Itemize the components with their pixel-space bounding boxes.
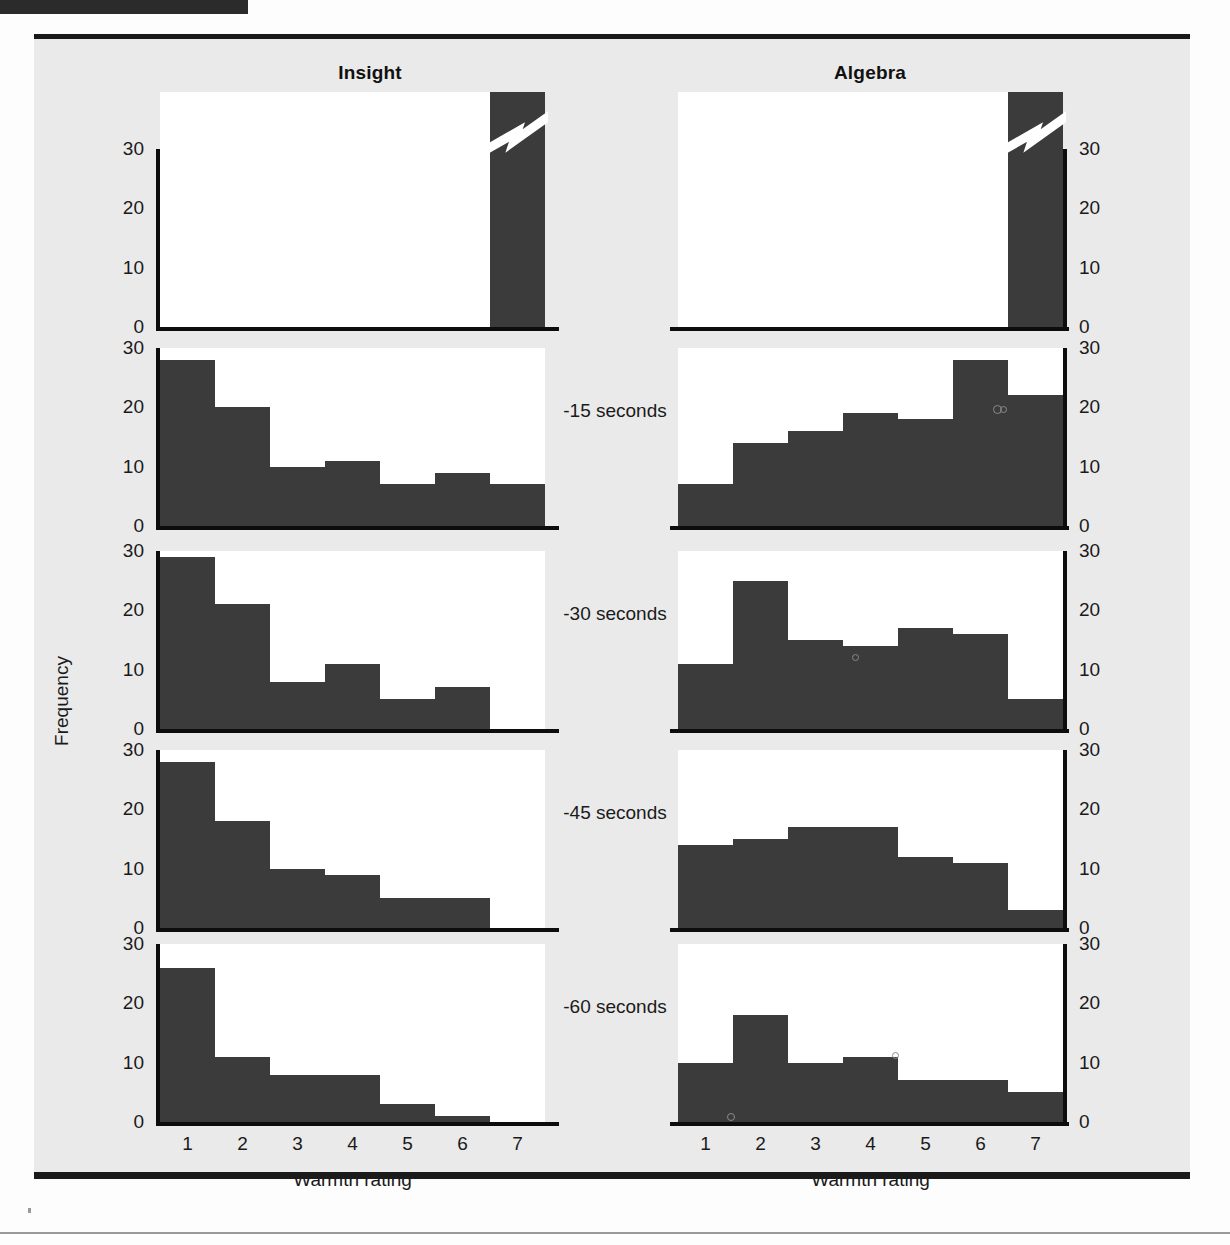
- y-tick-label: 0: [1079, 317, 1125, 336]
- y-tick-label: 10: [1079, 660, 1125, 679]
- histogram-bar: [325, 1075, 380, 1122]
- y-tick-label: 20: [1079, 600, 1125, 619]
- y-tick-label: 30: [98, 740, 144, 759]
- histogram-bar: [490, 92, 545, 327]
- y-tick-label: 20: [98, 799, 144, 818]
- y-axis-spine: [156, 348, 160, 530]
- x-tick-label: 7: [503, 1134, 533, 1153]
- x-tick-label: 6: [966, 1134, 996, 1153]
- histogram-bar: [270, 682, 325, 729]
- y-axis-spine: [1063, 750, 1067, 932]
- histogram-bar: [435, 687, 490, 729]
- histogram-bar: [160, 360, 215, 526]
- histogram-bar: [160, 762, 215, 928]
- histogram-bar: [1008, 1092, 1063, 1122]
- y-tick-label: 0: [98, 1112, 144, 1131]
- histogram-bar: [160, 968, 215, 1122]
- y-tick-label: 10: [98, 1053, 144, 1072]
- histogram-bar: [788, 431, 843, 526]
- y-tick-label: 10: [98, 859, 144, 878]
- x-axis-spine: [160, 526, 559, 530]
- x-axis-label: Warmth rating: [203, 1170, 503, 1189]
- histogram-bar: [1008, 395, 1063, 526]
- y-tick-label: 30: [1079, 934, 1125, 953]
- histogram-bar: [270, 1075, 325, 1122]
- histogram-bar: [1008, 699, 1063, 729]
- y-tick-label: 10: [1079, 859, 1125, 878]
- x-tick-label: 6: [448, 1134, 478, 1153]
- scan-speck: [1000, 406, 1007, 413]
- y-tick-label: 20: [1079, 993, 1125, 1012]
- x-axis-spine: [670, 526, 1069, 530]
- histogram-bar: [788, 827, 843, 928]
- histogram-bar: [380, 898, 435, 928]
- y-tick-label: 30: [1079, 740, 1125, 759]
- x-tick-label: 5: [393, 1134, 423, 1153]
- x-tick-label: 1: [173, 1134, 203, 1153]
- y-tick-label: 0: [98, 719, 144, 738]
- histogram-bar: [270, 869, 325, 928]
- x-tick-label: 3: [801, 1134, 831, 1153]
- histogram-bar: [788, 1063, 843, 1122]
- histogram-bar: [733, 839, 788, 928]
- x-tick-label: 2: [228, 1134, 258, 1153]
- y-tick-label: 30: [1079, 541, 1125, 560]
- x-tick-label: 1: [691, 1134, 721, 1153]
- histogram-panel: [678, 92, 1063, 327]
- x-tick-label: 5: [911, 1134, 941, 1153]
- y-axis-spine: [1063, 348, 1067, 530]
- column-title-insight: Insight: [260, 62, 480, 84]
- y-tick-label: 30: [98, 338, 144, 357]
- x-tick-label: 4: [338, 1134, 368, 1153]
- histogram-bar: [733, 443, 788, 526]
- histogram-bar: [898, 419, 953, 526]
- histogram-panel: [160, 92, 545, 327]
- y-tick-label: 0: [1079, 719, 1125, 738]
- y-tick-label: 10: [98, 457, 144, 476]
- histogram-bar: [678, 484, 733, 526]
- histogram-bar: [380, 699, 435, 729]
- figure-top-rule: [34, 34, 1190, 39]
- scan-speck: [852, 654, 859, 661]
- x-axis-spine: [670, 327, 1069, 331]
- histogram-bar: [843, 827, 898, 928]
- histogram-bar: [678, 1063, 733, 1122]
- histogram-bar: [733, 1015, 788, 1122]
- y-axis-spine: [1063, 944, 1067, 1126]
- x-tick-label: 3: [283, 1134, 313, 1153]
- histogram-bar: [843, 413, 898, 526]
- histogram-bar: [1008, 910, 1063, 928]
- histogram-bar: [953, 360, 1008, 526]
- histogram-bar: [380, 1104, 435, 1122]
- y-tick-label: 10: [98, 660, 144, 679]
- column-title-algebra: Algebra: [760, 62, 980, 84]
- histogram-bar: [490, 484, 545, 526]
- x-axis-spine: [160, 729, 559, 733]
- y-tick-label: 20: [98, 397, 144, 416]
- y-tick-label: 30: [98, 934, 144, 953]
- x-tick-label: 4: [856, 1134, 886, 1153]
- x-tick-label: 7: [1021, 1134, 1051, 1153]
- y-tick-label: 30: [98, 139, 144, 158]
- histogram-bar: [898, 1080, 953, 1122]
- scan-speck: [727, 1113, 735, 1121]
- histogram-bar: [733, 581, 788, 729]
- y-tick-label: 20: [98, 198, 144, 217]
- y-tick-label: 0: [98, 317, 144, 336]
- x-axis-spine: [670, 1122, 1069, 1126]
- page-corner-mark: [0, 0, 248, 14]
- histogram-bar: [215, 821, 270, 928]
- histogram-bar: [435, 898, 490, 928]
- x-axis-spine: [670, 928, 1069, 932]
- y-tick-label: 30: [98, 541, 144, 560]
- y-tick-label: 20: [1079, 397, 1125, 416]
- y-tick-label: 0: [98, 516, 144, 535]
- y-tick-label: 30: [1079, 338, 1125, 357]
- y-tick-label: 10: [1079, 258, 1125, 277]
- y-tick-label: 20: [1079, 198, 1125, 217]
- y-tick-label: 20: [98, 993, 144, 1012]
- histogram-bar: [898, 628, 953, 729]
- histogram-bar: [325, 875, 380, 928]
- page-bottom-rule: [0, 1232, 1230, 1234]
- histogram-bar: [788, 640, 843, 729]
